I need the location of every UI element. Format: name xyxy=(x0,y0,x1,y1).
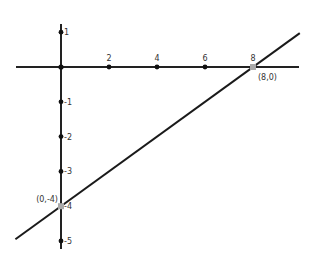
y-tick-label: -1 xyxy=(64,98,72,107)
y-tick-dot xyxy=(59,99,64,104)
coordinate-graph: 24681-1-2-3-4-5 (8,0)(0,-4) xyxy=(0,0,311,260)
x-tick-label: 6 xyxy=(202,54,207,63)
point-label: (8,0) xyxy=(258,73,277,82)
x-tick-dot xyxy=(155,65,160,70)
y-tick-dot xyxy=(59,30,64,35)
x-tick-label: 2 xyxy=(106,54,111,63)
y-tick-dot xyxy=(59,239,64,244)
y-tick-label: -5 xyxy=(64,237,72,246)
x-tick-dot xyxy=(203,65,208,70)
y-tick-label: -3 xyxy=(64,167,72,176)
y-tick-dot xyxy=(59,134,64,139)
intercept-marker xyxy=(58,203,64,209)
x-tick-label: 4 xyxy=(154,54,159,63)
origin-dot xyxy=(58,64,63,69)
intercept-marker xyxy=(250,64,256,70)
y-tick-label: 1 xyxy=(64,28,69,37)
x-tick-label: 8 xyxy=(250,54,255,63)
point-label: (0,-4) xyxy=(36,195,58,204)
y-tick-dot xyxy=(59,169,64,174)
x-tick-dot xyxy=(107,65,112,70)
y-tick-label: -2 xyxy=(64,133,72,142)
